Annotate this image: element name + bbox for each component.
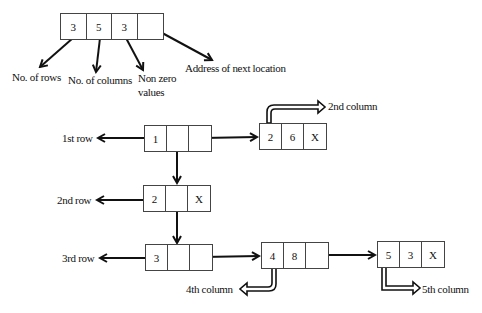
- down-pointer-cell: [167, 126, 189, 151]
- element-node-r3-c4: 4 8: [261, 242, 329, 269]
- next-cell: X: [304, 124, 326, 149]
- row-index-cell: 2: [144, 186, 166, 211]
- label-nonzero-values-1: Non zero: [138, 72, 176, 85]
- column-label-2nd: 2nd column: [328, 100, 377, 113]
- label-address-next: Address of next location: [185, 62, 286, 75]
- header-columns-cell: 5: [87, 14, 113, 39]
- row-index-cell: 3: [146, 245, 168, 270]
- row-label-3: 3rd row: [62, 252, 94, 265]
- row-head-node-3: 3: [145, 244, 213, 271]
- value-cell: 3: [400, 242, 422, 267]
- column-cell: 4: [262, 243, 284, 268]
- column-label-5th: 5th column: [422, 283, 469, 296]
- value-cell: 8: [284, 243, 306, 268]
- row-label-1: 1st row: [62, 132, 93, 145]
- next-cell: [306, 243, 328, 268]
- row-head-node-1: 1: [144, 125, 212, 152]
- sparse-matrix-linked-list-diagram: 3 5 3 No. of rows No. of columns Non zer…: [0, 0, 482, 313]
- down-pointer-cell: [166, 186, 188, 211]
- row-index-cell: 1: [145, 126, 167, 151]
- header-nonzero-cell: 3: [112, 14, 138, 39]
- label-no-of-rows: No. of rows: [12, 71, 61, 84]
- label-nonzero-values-2: values: [138, 86, 164, 99]
- down-pointer-cell: [168, 245, 190, 270]
- column-label-4th: 4th column: [186, 283, 233, 296]
- right-pointer-cell: [189, 126, 211, 151]
- value-cell: 6: [282, 124, 304, 149]
- right-pointer-cell: X: [188, 186, 210, 211]
- element-node-r1-c2: 2 6 X: [259, 123, 327, 150]
- header-rows-cell: 3: [61, 14, 87, 39]
- row-label-2: 2nd row: [57, 194, 91, 207]
- column-cell: 2: [260, 124, 282, 149]
- next-cell: X: [422, 242, 444, 267]
- label-no-of-columns: No. of columns: [68, 74, 132, 87]
- right-pointer-cell: [190, 245, 212, 270]
- row-head-node-2: 2 X: [143, 185, 211, 212]
- header-next-cell: [138, 14, 164, 39]
- column-cell: 5: [378, 242, 400, 267]
- element-node-r3-c5: 5 3 X: [377, 241, 445, 268]
- header-node: 3 5 3: [60, 13, 164, 40]
